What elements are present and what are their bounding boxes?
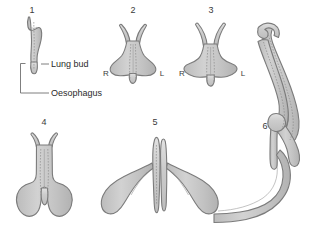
panel-2-label-right: R <box>103 69 109 78</box>
panel-6-stomach <box>214 150 290 223</box>
oesophagus-label: Oesophagus <box>51 88 103 98</box>
panel-4-central-bud <box>41 188 48 205</box>
diagram-canvas: 1 Lung bud Oesophagus 2 <box>0 0 332 241</box>
panel-1-foregut <box>28 17 42 63</box>
panel-2-bud <box>129 74 136 84</box>
panel-1-number: 1 <box>29 5 34 15</box>
panel-6-group: 6 <box>214 23 300 222</box>
panel-6-number: 6 <box>262 121 267 131</box>
panel-5-group: 5 <box>101 117 218 214</box>
panel-2-group: 2 R L <box>103 5 165 83</box>
panel-3-label-left: L <box>241 69 246 78</box>
embryology-figure: 1 Lung bud Oesophagus 2 <box>0 0 332 241</box>
lung-bud-label: Lung bud <box>51 59 89 69</box>
panel-4-group: 4 <box>16 117 72 216</box>
panel-5-lobe-right <box>166 163 218 214</box>
panel-3-group: 3 R L <box>179 5 246 86</box>
panel-5-number: 5 <box>152 117 157 127</box>
panel-6-bronchus-left <box>270 126 278 169</box>
panel-4-number: 4 <box>41 117 46 127</box>
panel-5-lobe-left <box>101 163 153 214</box>
panel-1-group: 1 Lung bud Oesophagus <box>21 5 103 98</box>
panel-5-oesophagus-tube <box>161 139 167 211</box>
panel-3-label-right: R <box>179 69 185 78</box>
panel-2-number: 2 <box>130 5 135 15</box>
panel-3-horn-left <box>196 23 208 46</box>
panel-3-number: 3 <box>208 5 213 15</box>
panel-3-bud <box>207 75 215 86</box>
panel-2-label-left: L <box>160 69 165 78</box>
panel-3-horn-right <box>214 23 226 46</box>
panel-6-carina <box>268 114 286 132</box>
